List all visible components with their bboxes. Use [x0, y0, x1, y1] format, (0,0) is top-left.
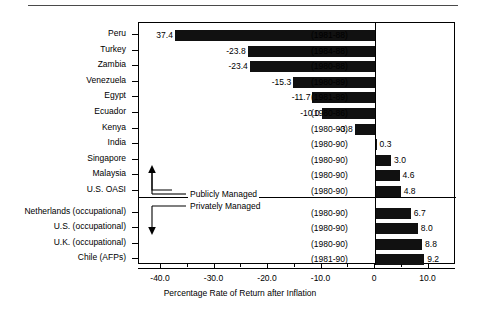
y-axis-label: U.S. (occupational) — [54, 219, 126, 233]
y-axis-label: Netherlands (occupational) — [24, 204, 126, 218]
bar-row: -15.3(1980-89) — [139, 74, 454, 90]
bar-period-label: (1980-90) — [311, 153, 348, 167]
bar-period-label: (1980-90) — [311, 237, 348, 251]
bar-period-label: (1981-89) — [311, 90, 348, 104]
x-axis-minor-tick — [187, 264, 188, 267]
x-axis-tick — [267, 264, 268, 269]
x-axis-tick-label: -10.0 — [311, 272, 330, 284]
zero-axis-line — [375, 23, 376, 265]
x-axis-title: Percentage Rate of Return after Inflatio… — [0, 288, 480, 298]
x-axis-minor-tick — [240, 264, 241, 267]
y-axis-label: Venezuela — [86, 73, 126, 87]
bar-row: -11.7(1981-89) — [139, 89, 454, 105]
x-axis-minor-tick — [401, 264, 402, 267]
bar-value-label: 4.6 — [403, 168, 415, 182]
bar-value-label: 37.4 — [156, 28, 173, 42]
x-axis-tick — [321, 264, 322, 269]
x-axis-tick — [428, 264, 429, 269]
x-axis-minor-tick — [347, 264, 348, 267]
bar-row: 8.0(1980-90) — [139, 220, 454, 236]
bar — [355, 124, 375, 135]
bar — [375, 223, 418, 234]
bar-value-label: -11.7 — [292, 90, 311, 104]
x-axis-tick-label: -30.0 — [204, 272, 223, 284]
bar-value-label: -15.3 — [272, 75, 291, 89]
bar-period-label: (1980-88) — [311, 59, 348, 73]
y-axis-label: U.S. OASI — [87, 182, 126, 196]
x-axis-tick-label: -20.0 — [257, 272, 276, 284]
y-axis-label: Turkey — [100, 42, 126, 56]
bar-period-label: (1980-86) — [311, 106, 348, 120]
bar-row: 37.4(1981-88) — [139, 27, 454, 43]
bar-value-label: -23.8 — [226, 44, 245, 58]
bar — [375, 208, 411, 219]
bar-period-label: (1981-90) — [311, 252, 348, 266]
bar-period-label: (1980-90) — [311, 221, 348, 235]
bar-row: 8.8(1980-90) — [139, 236, 454, 252]
bar-rows: 37.4(1981-88)-23.8(1984-88)-23.4(1980-88… — [139, 23, 454, 263]
bar-period-label: (1980-90) — [311, 122, 348, 136]
bar-period-label: (1981-88) — [311, 28, 348, 42]
bar — [375, 254, 424, 265]
y-axis-label: India — [108, 135, 126, 149]
plot-area: 37.4(1981-88)-23.8(1984-88)-23.4(1980-88… — [138, 22, 455, 264]
y-axis-label: U.K. (occupational) — [54, 235, 126, 249]
bar-value-label: 0.3 — [380, 137, 392, 151]
bar-value-label: -23.4 — [228, 59, 247, 73]
bar-row: 3.0(1980-90) — [139, 152, 454, 168]
y-axis-label: Chile (AFPs) — [78, 250, 126, 264]
bar — [375, 239, 422, 250]
bar-period-label: (1984-88) — [311, 44, 348, 58]
bar-row: 4.6(1980-90) — [139, 167, 454, 183]
y-axis-label: Egypt — [104, 88, 126, 102]
bar — [375, 186, 401, 197]
bar-period-label: (1980-90) — [311, 137, 348, 151]
y-axis-category-labels: PeruTurkeyZambiaVenezuelaEgyptEcuadorKen… — [0, 22, 132, 264]
y-axis-label: Singapore — [87, 151, 126, 165]
y-axis-label: Malaysia — [92, 166, 126, 180]
bar-row: -3.8(1980-90) — [139, 121, 454, 137]
bar-row: -23.4(1980-88) — [139, 58, 454, 74]
y-axis-label: Peru — [108, 26, 126, 40]
bar-row: -23.8(1984-88) — [139, 43, 454, 59]
x-axis-minor-tick — [294, 264, 295, 267]
bar — [375, 155, 391, 166]
x-axis-tick-label: -40.0 — [150, 272, 169, 284]
bar-row: 6.7(1980-90) — [139, 205, 454, 221]
bar-period-label: (1980-89) — [311, 75, 348, 89]
bar-value-label: 8.8 — [425, 237, 437, 251]
y-axis-label: Kenya — [102, 120, 126, 134]
y-axis-label: Zambia — [98, 57, 126, 71]
bar-value-label: 9.2 — [427, 252, 439, 266]
x-axis-tick — [214, 264, 215, 269]
chart-figure: PeruTurkeyZambiaVenezuelaEgyptEcuadorKen… — [0, 0, 480, 324]
bar-value-label: 8.0 — [421, 221, 433, 235]
x-axis-line — [138, 268, 455, 269]
bar-period-label: (1980-90) — [311, 168, 348, 182]
page-top-rule — [28, 5, 458, 6]
bar — [375, 170, 400, 181]
group-divider — [139, 197, 456, 198]
bar-value-label: 3.0 — [394, 153, 406, 167]
x-axis-tick — [374, 264, 375, 269]
bar-period-label: (1980-90) — [311, 206, 348, 220]
x-axis-tick — [160, 264, 161, 269]
x-axis-tick-label: 10.0 — [419, 272, 436, 284]
bar-row: -10.0(1980-86) — [139, 105, 454, 121]
x-axis-tick-label: 0 — [372, 272, 377, 284]
bar-value-label: 6.7 — [414, 206, 426, 220]
y-axis-label: Ecuador — [94, 104, 126, 118]
bar-row: 0.3(1980-90) — [139, 136, 454, 152]
